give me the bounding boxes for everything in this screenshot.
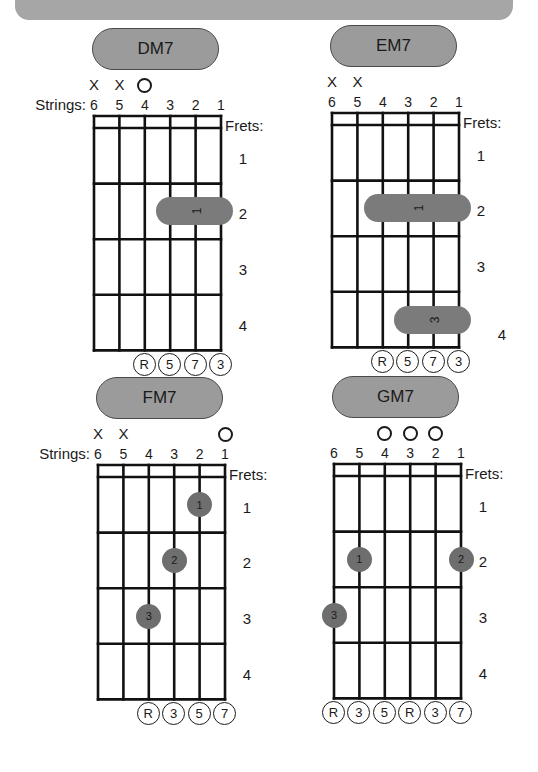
string-number: 6 (324, 94, 340, 110)
frets-label: Frets: (225, 117, 263, 135)
barre-finger-number: 1 (412, 201, 426, 215)
fret-number: 1 (473, 147, 489, 165)
string-number: 3 (166, 446, 182, 462)
string-number: 6 (90, 446, 106, 462)
chord-diagram-em7: EM7XX654321Frets:123413R573 (332, 113, 459, 353)
frets-label: Frets: (465, 465, 503, 483)
muted-string-icon: X (349, 74, 365, 90)
muted-string-icon: X (115, 426, 131, 442)
string-number: 2 (188, 97, 204, 113)
finger-dot: 1 (347, 547, 372, 572)
interval-circle: R (137, 702, 160, 725)
barre-finger-number: 3 (428, 313, 442, 327)
frets-label: Frets: (463, 114, 501, 132)
fret-number: 3 (473, 258, 489, 276)
interval-circle: R (133, 353, 156, 376)
interval-circle: 7 (422, 350, 445, 373)
frets-label: Frets: (229, 466, 267, 484)
fretboard-grid (94, 116, 221, 350)
interval-circle: 5 (396, 350, 419, 373)
string-number: 4 (377, 445, 393, 461)
interval-circle: 3 (347, 701, 370, 724)
string-number: 1 (213, 97, 229, 113)
fretboard-grid (334, 464, 461, 698)
finger-dot: 3 (136, 604, 161, 629)
interval-circle: 5 (188, 702, 211, 725)
fret-number: 2 (475, 553, 491, 571)
fret-number: 2 (473, 202, 489, 220)
muted-string-icon: X (90, 426, 106, 442)
fret-number: 1 (239, 499, 255, 517)
string-number: 4 (137, 97, 153, 113)
finger-dot: 2 (449, 547, 474, 572)
title-banner (15, 0, 513, 20)
open-string-icon (377, 426, 392, 441)
interval-circle: 5 (373, 701, 396, 724)
string-number: 4 (141, 446, 157, 462)
fret-number: 3 (475, 609, 491, 627)
interval-circle: 3 (162, 702, 185, 725)
chord-diagram-dm7: DM7XXStrings:654321Frets:12341R573 (94, 116, 221, 356)
string-number: 2 (192, 446, 208, 462)
interval-circle: 7 (449, 701, 472, 724)
chord-name-pill: GM7 (332, 376, 459, 418)
fret-number: 4 (475, 665, 491, 683)
finger-dot: 3 (322, 603, 347, 628)
string-number: 5 (115, 446, 131, 462)
string-number: 6 (326, 445, 342, 461)
interval-circle: 5 (158, 353, 181, 376)
fret-number: 4 (494, 326, 510, 344)
fret-number: 2 (235, 205, 251, 223)
fret-number: 2 (239, 554, 255, 572)
string-number: 5 (351, 445, 367, 461)
open-string-icon (218, 427, 233, 442)
interval-circle: 3 (447, 350, 470, 373)
finger-dot: 2 (162, 548, 187, 573)
fret-number: 3 (239, 610, 255, 628)
open-string-icon (137, 78, 152, 93)
muted-string-icon: X (86, 77, 102, 93)
interval-circle: 7 (213, 702, 236, 725)
chord-name-pill: FM7 (96, 377, 223, 419)
fret-number: 3 (235, 261, 251, 279)
string-number: 1 (451, 94, 467, 110)
string-number: 4 (375, 94, 391, 110)
muted-string-icon: X (111, 77, 127, 93)
barre-finger-number: 1 (190, 204, 204, 218)
interval-circle: R (371, 350, 394, 373)
strings-label: Strings: (39, 445, 90, 463)
interval-circle: R (398, 701, 421, 724)
string-number: 3 (400, 94, 416, 110)
chord-name-pill: EM7 (330, 25, 457, 67)
open-string-icon (403, 426, 418, 441)
string-number: 6 (86, 97, 102, 113)
string-number: 5 (349, 94, 365, 110)
string-number: 5 (111, 97, 127, 113)
string-number: 2 (428, 445, 444, 461)
fret-number: 4 (239, 666, 255, 684)
muted-string-icon: X (324, 74, 340, 90)
string-number: 2 (426, 94, 442, 110)
open-string-icon (428, 426, 443, 441)
fret-number: 1 (475, 498, 491, 516)
chord-name-pill: DM7 (92, 28, 219, 70)
string-number: 1 (217, 446, 233, 462)
interval-circle: 3 (424, 701, 447, 724)
interval-circle: R (322, 701, 345, 724)
string-number: 3 (402, 445, 418, 461)
string-number: 3 (162, 97, 178, 113)
chord-diagram-gm7: GM7654321Frets:1234123R35R37 (334, 464, 461, 704)
chord-diagram-fm7: FM7XXStrings:654321Frets:1234123R357 (98, 465, 225, 705)
string-number: 1 (453, 445, 469, 461)
fret-number: 1 (235, 150, 251, 168)
fret-number: 4 (235, 317, 251, 335)
interval-circle: 3 (209, 353, 232, 376)
interval-circle: 7 (184, 353, 207, 376)
strings-label: Strings: (35, 96, 86, 114)
